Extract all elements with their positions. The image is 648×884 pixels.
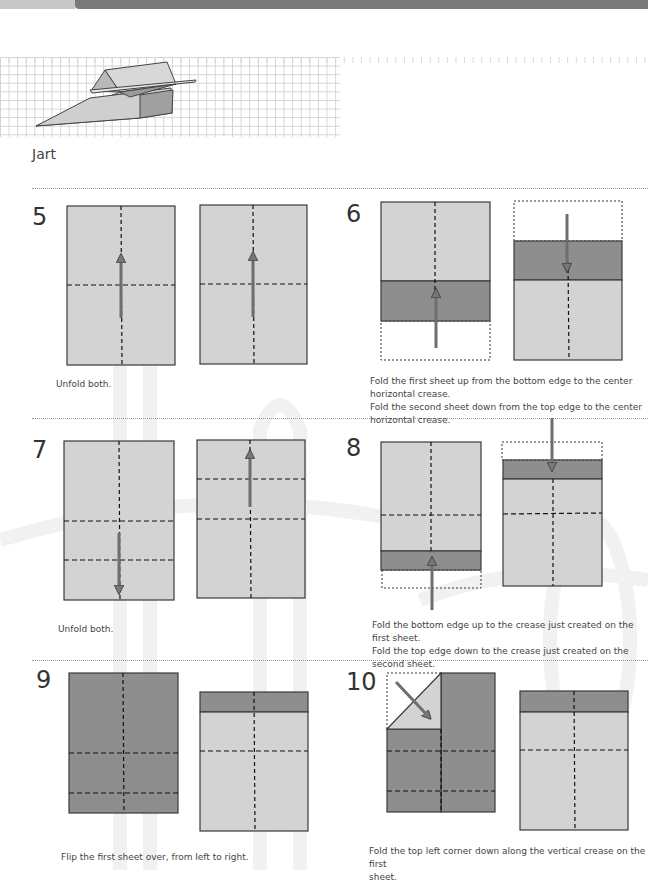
step-9-sheet-2 [200, 692, 308, 831]
step-8-caption-line-2: Fold the top edge down to the crease jus… [372, 645, 648, 671]
step-9-sheet-1 [69, 673, 178, 813]
step-6-sheet-1 [381, 202, 490, 360]
step-5-caption: Unfold both. [56, 378, 111, 391]
step-8-caption: Fold the bottom edge up to the crease ju… [372, 619, 648, 671]
step-8-sheet-2 [502, 418, 602, 586]
step-7-caption: Unfold both. [58, 623, 113, 636]
step-10-caption-line-2: sheet. [369, 871, 648, 884]
step-6-sheet-2 [514, 201, 622, 360]
step-7-sheet-2 [197, 440, 305, 598]
step-7-sheet-1 [64, 441, 174, 600]
step-10-caption-line-1: Fold the top left corner down along the … [369, 845, 648, 871]
step-8-caption-line-1: Fold the bottom edge up to the crease ju… [372, 619, 648, 645]
step-6-caption: Fold the first sheet up from the bottom … [370, 375, 648, 427]
step-6-caption-line-1: Fold the first sheet up from the bottom … [370, 375, 648, 401]
step-10-caption: Fold the top left corner down along the … [369, 845, 648, 884]
step-5-sheet-2 [200, 205, 307, 364]
step-10-sheet-2 [520, 691, 628, 830]
step-5-sheet-1 [67, 206, 175, 365]
step-6-caption-line-2: Fold the second sheet down from the top … [370, 401, 648, 427]
step-8-sheet-1 [381, 442, 481, 610]
step-9-caption: Flip the first sheet over, from left to … [61, 851, 249, 864]
step-10-sheet-1 [387, 673, 495, 812]
